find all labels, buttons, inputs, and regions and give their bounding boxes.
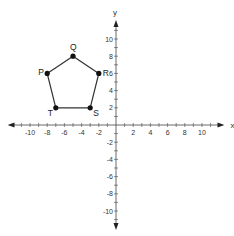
y-tick-label: 6 (109, 70, 113, 77)
point-label-p: P (38, 67, 44, 77)
point-r (96, 71, 101, 76)
axes: xy (8, 8, 234, 230)
x-tick-label: 10 (198, 129, 206, 136)
point-label-r: R (103, 68, 109, 78)
y-axis-label: y (113, 8, 117, 17)
point-label-q: Q (70, 42, 77, 52)
x-tick-label: -2 (96, 129, 102, 136)
x-tick-label: 8 (183, 129, 187, 136)
x-axis-right-arrow-icon (217, 123, 224, 128)
y-tick-label: 2 (109, 104, 113, 111)
x-tick-label: -4 (78, 129, 84, 136)
point-q (70, 54, 75, 59)
pentagon (47, 56, 99, 108)
x-axis-label: x (230, 121, 234, 130)
x-axis-left-arrow-icon (8, 123, 15, 128)
y-axis-top-arrow-icon (114, 20, 119, 27)
pentagon-outline (47, 56, 99, 108)
x-tick-label: 4 (148, 129, 152, 136)
y-tick-label: 8 (109, 53, 113, 60)
point-t (53, 105, 58, 110)
y-tick-label: 4 (109, 87, 113, 94)
y-tick-label: -4 (107, 156, 113, 163)
y-tick-label: -6 (107, 173, 113, 180)
point-label-s: S (93, 108, 99, 118)
x-tick-label: -8 (44, 129, 50, 136)
x-tick-label: -10 (25, 129, 35, 136)
x-tick-label: 2 (131, 129, 135, 136)
x-tick-label: 6 (166, 129, 170, 136)
x-tick-label: -6 (61, 129, 67, 136)
y-tick-label: -2 (107, 139, 113, 146)
y-tick-label: -8 (107, 190, 113, 197)
point-label-t: T (48, 108, 53, 118)
y-tick-label: 10 (105, 36, 113, 43)
point-s (88, 105, 93, 110)
point-p (45, 71, 50, 76)
coordinate-plane: xy -10-8-6-4-2246810108642-2-4-6-8-10 PQ… (0, 0, 234, 236)
y-axis-bottom-arrow-icon (114, 223, 119, 230)
y-tick-label: -10 (103, 208, 113, 215)
